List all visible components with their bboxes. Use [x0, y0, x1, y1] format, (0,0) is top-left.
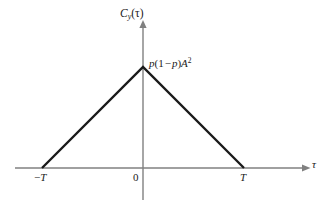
y-axis-label: Cy(τ)	[120, 8, 144, 21]
annotation-one: 1	[158, 57, 164, 69]
plot-canvas	[0, 0, 326, 209]
x-axis-label: τ	[312, 159, 316, 170]
peak-value-annotation: p(1−p)A2	[149, 57, 192, 69]
x-tick-label-positive-t: T	[240, 172, 246, 183]
x-tick-label-zero: 0	[133, 172, 139, 183]
annotation-amplitude: A	[181, 57, 188, 69]
y-axis-label-argument: (τ)	[131, 7, 143, 19]
y-axis-label-main: C	[120, 7, 128, 19]
period-symbol-negative: T	[40, 171, 46, 183]
annotation-minus-sign: −	[164, 57, 172, 69]
x-axis-arrowhead-icon	[302, 164, 311, 171]
correlation-function-figure: Cy(τ) p(1−p)A2 −T 0 T τ	[0, 0, 326, 209]
annotation-exponent: 2	[188, 56, 192, 65]
x-tick-label-negative-t: −T	[34, 172, 46, 183]
